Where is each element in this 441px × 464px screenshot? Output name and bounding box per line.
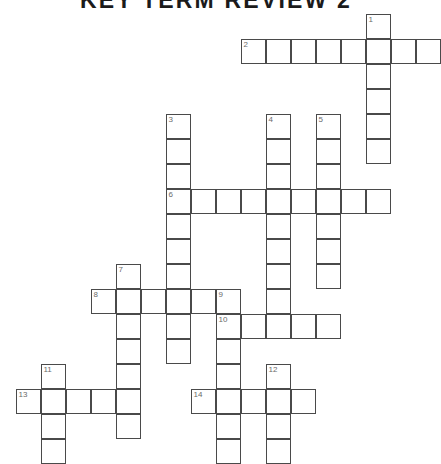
crossword-cell[interactable] — [166, 339, 191, 364]
crossword-cell[interactable] — [166, 239, 191, 264]
crossword-cell[interactable]: 11 — [41, 364, 66, 389]
clue-number: 4 — [269, 115, 273, 124]
crossword-cell[interactable] — [266, 164, 291, 189]
crossword-cell[interactable] — [291, 189, 316, 214]
crossword-cell[interactable] — [316, 314, 341, 339]
clue-number: 2 — [244, 40, 248, 49]
crossword-cell[interactable] — [266, 139, 291, 164]
crossword-cell[interactable] — [316, 264, 341, 289]
crossword-cell[interactable] — [266, 414, 291, 439]
crossword-cell[interactable] — [241, 314, 266, 339]
crossword-cell[interactable]: 3 — [166, 114, 191, 139]
clue-number: 8 — [94, 290, 98, 299]
crossword-cell[interactable]: 4 — [266, 114, 291, 139]
crossword-cell[interactable] — [316, 239, 341, 264]
crossword-cell[interactable] — [316, 164, 341, 189]
crossword-cell[interactable] — [416, 39, 441, 64]
crossword-cell[interactable] — [291, 314, 316, 339]
crossword-cell[interactable] — [166, 214, 191, 239]
crossword-cell[interactable] — [341, 39, 366, 64]
crossword-cell[interactable] — [291, 39, 316, 64]
crossword-cell[interactable] — [116, 339, 141, 364]
clue-number: 11 — [44, 365, 52, 374]
crossword-cell[interactable] — [166, 289, 191, 314]
crossword-cell[interactable] — [316, 189, 341, 214]
crossword-cell[interactable]: 12 — [266, 364, 291, 389]
crossword-cell[interactable]: 9 — [216, 289, 241, 314]
crossword-cell[interactable] — [241, 189, 266, 214]
crossword-cell[interactable] — [266, 289, 291, 314]
crossword-cell[interactable] — [116, 289, 141, 314]
crossword-cell[interactable] — [216, 189, 241, 214]
crossword-cell[interactable]: 2 — [241, 39, 266, 64]
crossword-cell[interactable] — [41, 414, 66, 439]
clue-number: 7 — [119, 265, 123, 274]
crossword-cell[interactable] — [266, 214, 291, 239]
clue-number: 6 — [169, 190, 173, 199]
crossword-cell[interactable] — [266, 389, 291, 414]
crossword-cell[interactable] — [366, 139, 391, 164]
crossword-cell[interactable]: 10 — [216, 314, 241, 339]
crossword-cell[interactable] — [266, 314, 291, 339]
crossword-cell[interactable] — [116, 389, 141, 414]
clue-number: 10 — [219, 315, 228, 324]
crossword-cell[interactable]: 14 — [191, 389, 216, 414]
crossword-cell[interactable] — [166, 264, 191, 289]
crossword-cell[interactable] — [366, 189, 391, 214]
crossword-cell[interactable]: 8 — [91, 289, 116, 314]
crossword-cell[interactable] — [166, 139, 191, 164]
crossword-cell[interactable]: 7 — [116, 264, 141, 289]
crossword-cell[interactable] — [266, 189, 291, 214]
crossword-cell[interactable] — [366, 39, 391, 64]
crossword-cell[interactable] — [41, 439, 66, 464]
crossword-cell[interactable] — [141, 289, 166, 314]
crossword-cell[interactable] — [191, 189, 216, 214]
crossword-cell[interactable] — [116, 414, 141, 439]
crossword-cell[interactable] — [66, 389, 91, 414]
crossword-cell[interactable] — [341, 189, 366, 214]
crossword-cell[interactable] — [116, 314, 141, 339]
crossword-cell[interactable] — [316, 39, 341, 64]
crossword-cell[interactable] — [191, 289, 216, 314]
clue-number: 13 — [19, 390, 28, 399]
crossword-cell[interactable]: 5 — [316, 114, 341, 139]
crossword-cell[interactable] — [216, 389, 241, 414]
crossword-cell[interactable] — [116, 364, 141, 389]
clue-number: 3 — [169, 115, 173, 124]
crossword-cell[interactable] — [266, 39, 291, 64]
crossword-cell[interactable] — [216, 414, 241, 439]
crossword-cell[interactable] — [316, 214, 341, 239]
crossword-cell[interactable] — [166, 314, 191, 339]
crossword-cell[interactable] — [291, 389, 316, 414]
crossword-cell[interactable] — [266, 239, 291, 264]
crossword-cell[interactable] — [366, 89, 391, 114]
clue-number: 14 — [194, 390, 203, 399]
crossword-cell[interactable] — [166, 164, 191, 189]
crossword-cell[interactable] — [266, 439, 291, 464]
crossword-cell[interactable]: 13 — [16, 389, 41, 414]
crossword-cell[interactable] — [216, 439, 241, 464]
crossword-cell[interactable] — [391, 39, 416, 64]
crossword-cell[interactable] — [41, 389, 66, 414]
crossword-cell[interactable] — [266, 264, 291, 289]
crossword-cell[interactable] — [216, 364, 241, 389]
clue-number: 1 — [369, 15, 373, 24]
crossword-cell[interactable] — [366, 64, 391, 89]
crossword-cell[interactable]: 1 — [366, 14, 391, 39]
crossword-cell[interactable]: 6 — [166, 189, 191, 214]
crossword-cell[interactable] — [316, 139, 341, 164]
crossword-cell[interactable] — [241, 389, 266, 414]
crossword-cell[interactable] — [91, 389, 116, 414]
crossword-cell[interactable] — [366, 114, 391, 139]
clue-number: 12 — [269, 365, 278, 374]
crossword-cell[interactable] — [216, 339, 241, 364]
clue-number: 9 — [219, 290, 223, 299]
clue-number: 5 — [319, 115, 323, 124]
